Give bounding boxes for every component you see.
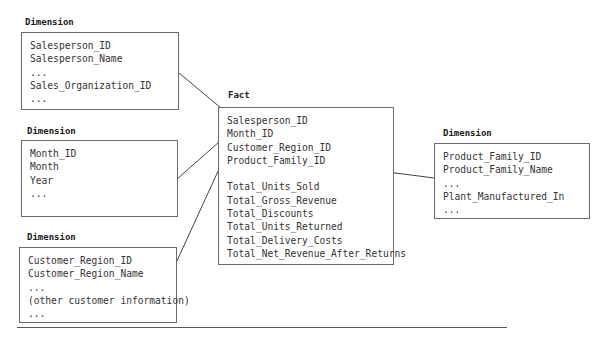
fact-measure: Total_Net_Revenue_After_Returns bbox=[227, 247, 393, 260]
dimension-field: ... bbox=[443, 203, 589, 216]
dimension-product-family-label: Dimension bbox=[443, 128, 492, 138]
fact-measure: Total_Gross_Revenue bbox=[227, 194, 393, 207]
dimension-field: Salesperson_Name bbox=[30, 52, 178, 65]
fact-measure: Total_Units_Sold bbox=[227, 180, 393, 193]
fact-measure: Total_Delivery_Costs bbox=[227, 234, 393, 247]
dimension-field: Sales_Organization_ID bbox=[30, 79, 178, 92]
dimension-field: Month_ID bbox=[30, 147, 177, 160]
dimension-field: ... bbox=[30, 187, 177, 200]
dimension-field: (other customer information) bbox=[28, 294, 176, 307]
fact-key: Month_ID bbox=[227, 127, 393, 140]
dimension-field: Product_Family_ID bbox=[443, 150, 589, 163]
bottom-divider bbox=[17, 327, 507, 328]
dimension-customer-region-table: Customer_Region_ID Customer_Region_Name … bbox=[19, 247, 177, 323]
dimension-field: Plant_Manufactured_In bbox=[443, 190, 589, 203]
dimension-field: ... bbox=[28, 281, 176, 294]
dimension-salesperson-label: Dimension bbox=[25, 17, 74, 27]
dimension-customer-region-label: Dimension bbox=[27, 232, 76, 242]
dimension-salesperson-table: Salesperson_ID Salesperson_Name ... Sale… bbox=[21, 32, 179, 110]
fact-measure: Total_Discounts bbox=[227, 207, 393, 220]
dimension-month-table: Month_ID Month Year ... bbox=[21, 140, 178, 217]
dimension-field: ... bbox=[30, 66, 178, 79]
fact-table: Salesperson_ID Month_ID Customer_Region_… bbox=[218, 107, 394, 265]
fact-key: Product_Family_ID bbox=[227, 154, 393, 167]
dimension-field: Year bbox=[30, 174, 177, 187]
fact-key: Customer_Region_ID bbox=[227, 141, 393, 154]
dimension-field: ... bbox=[443, 177, 589, 190]
dimension-field: Customer_Region_Name bbox=[28, 267, 176, 280]
fact-label: Fact bbox=[228, 90, 250, 100]
fact-spacer bbox=[227, 167, 393, 180]
dimension-field: ... bbox=[28, 307, 176, 320]
dimension-field: ... bbox=[30, 92, 178, 105]
dimension-field: Product_Family_Name bbox=[443, 163, 589, 176]
dimension-field: Salesperson_ID bbox=[30, 39, 178, 52]
dimension-field: Customer_Region_ID bbox=[28, 254, 176, 267]
dimension-product-family-table: Product_Family_ID Product_Family_Name ..… bbox=[434, 143, 590, 219]
dimension-month-label: Dimension bbox=[27, 126, 76, 136]
fact-measure: Total_Units_Returned bbox=[227, 220, 393, 233]
dimension-field: Month bbox=[30, 160, 177, 173]
fact-key: Salesperson_ID bbox=[227, 114, 393, 127]
